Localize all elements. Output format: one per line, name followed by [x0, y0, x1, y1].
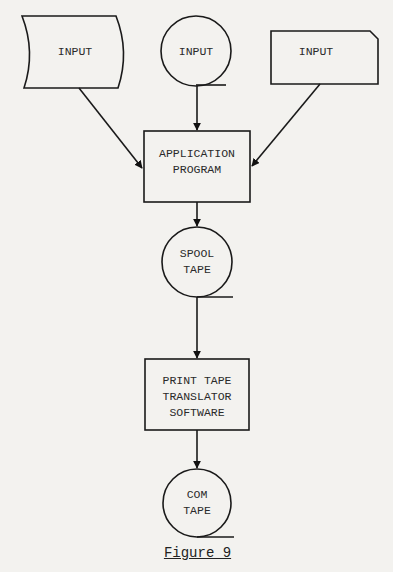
input-magnetic-tape-label: INPUT [156, 44, 236, 60]
input-punched-tape-label: INPUT [30, 44, 120, 60]
input-card-label: INPUT [271, 44, 361, 60]
spool-tape-label: SPOOL TAPE [157, 246, 237, 278]
print-translator-label: PRINT TAPE TRANSLATOR SOFTWARE [145, 373, 249, 421]
figure-caption: Figure 9 [150, 545, 245, 561]
application-program-label: APPLICATION PROGRAM [144, 146, 250, 178]
com-tape-label: COM TAPE [157, 487, 237, 519]
flowchart-figure: INPUT INPUT INPUT APPLICATION PROGRAM SP… [0, 0, 393, 572]
